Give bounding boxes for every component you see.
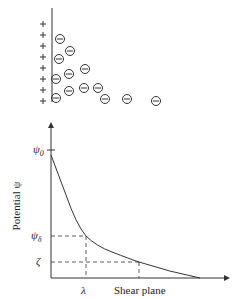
lambda-label: λ bbox=[81, 284, 86, 296]
negative-ions bbox=[52, 35, 161, 106]
y-axis-arrow bbox=[48, 122, 54, 128]
zeta-label: ζ bbox=[36, 255, 40, 267]
positive-charges bbox=[40, 21, 46, 104]
potential-curve bbox=[51, 155, 200, 278]
x-axis-label: Shear plane bbox=[114, 284, 166, 296]
psid-label: ψδ bbox=[31, 229, 42, 244]
x-axis-arrow bbox=[224, 275, 230, 281]
y-axis-label: Potential ψ bbox=[10, 176, 22, 236]
psi0-label: ψ0 bbox=[33, 143, 44, 158]
